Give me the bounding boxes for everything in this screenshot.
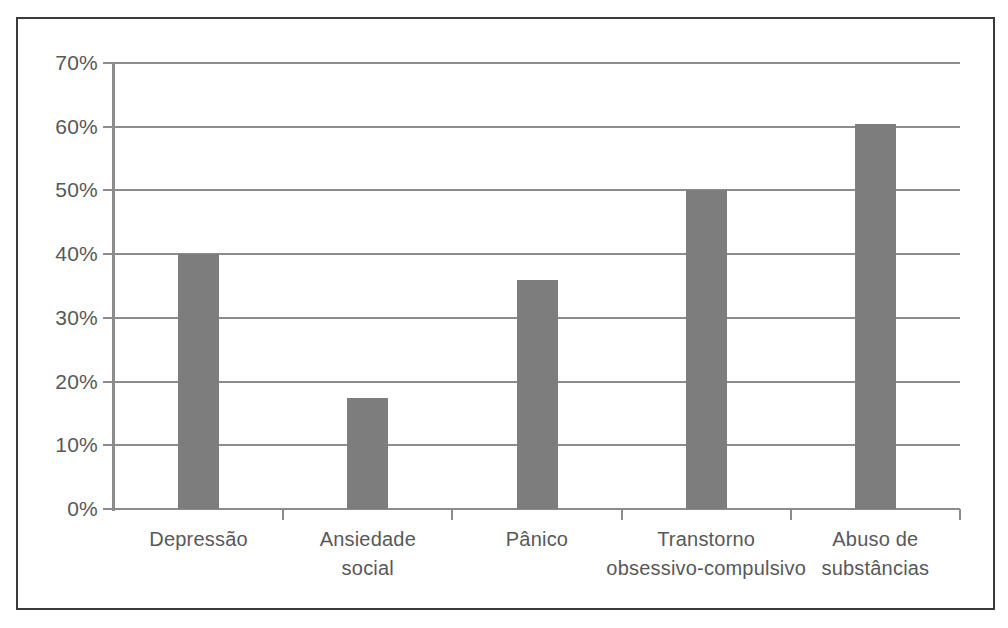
x-tick-mark bbox=[451, 509, 453, 520]
plot-area: 70%60%50%40%30%20%10%0% DepressãoAnsieda… bbox=[114, 63, 960, 509]
x-tick-label-line: Pânico bbox=[506, 525, 568, 554]
x-tick-label-line: substâncias bbox=[821, 554, 929, 583]
x-tick-label-line: Abuso de bbox=[821, 525, 929, 554]
y-tick-mark bbox=[103, 508, 114, 510]
gridline bbox=[114, 126, 960, 128]
y-tick-mark bbox=[103, 126, 114, 128]
x-tick-label: Transtornoobsessivo-compulsivo bbox=[606, 525, 806, 583]
bar bbox=[178, 254, 219, 509]
x-tick-label-line: obsessivo-compulsivo bbox=[606, 554, 806, 583]
y-tick-label: 0% bbox=[67, 497, 98, 521]
x-tick-mark bbox=[282, 509, 284, 520]
y-tick-label: 70% bbox=[55, 51, 98, 75]
x-tick-label: Abuso desubstâncias bbox=[821, 525, 929, 583]
y-tick-label: 10% bbox=[55, 433, 98, 457]
y-tick-mark bbox=[103, 381, 114, 383]
x-tick-label: Ansiedadesocial bbox=[320, 525, 416, 583]
x-tick-label-line: Ansiedade bbox=[320, 525, 416, 554]
x-tick-mark bbox=[959, 509, 961, 520]
x-tick-label: Pânico bbox=[506, 525, 568, 554]
y-tick-mark bbox=[103, 189, 114, 191]
x-tick-mark bbox=[790, 509, 792, 520]
y-tick-mark bbox=[103, 444, 114, 446]
gridline bbox=[114, 253, 960, 255]
y-tick-label: 50% bbox=[55, 178, 98, 202]
y-tick-label: 20% bbox=[55, 370, 98, 394]
x-tick-mark bbox=[621, 509, 623, 520]
y-tick-label: 30% bbox=[55, 306, 98, 330]
y-tick-mark bbox=[103, 317, 114, 319]
figure-root: 70%60%50%40%30%20%10%0% DepressãoAnsieda… bbox=[0, 0, 1008, 628]
gridline bbox=[114, 62, 960, 64]
y-tick-mark bbox=[103, 253, 114, 255]
bar bbox=[517, 280, 558, 509]
x-tick-label-line: Transtorno bbox=[606, 525, 806, 554]
x-tick-label: Depressão bbox=[149, 525, 248, 554]
y-tick-label: 60% bbox=[55, 115, 98, 139]
chart-frame: 70%60%50%40%30%20%10%0% DepressãoAnsieda… bbox=[16, 17, 995, 610]
bar bbox=[347, 398, 388, 510]
x-tick-label-line: social bbox=[320, 554, 416, 583]
bar bbox=[855, 124, 896, 509]
bar bbox=[686, 190, 727, 509]
gridline bbox=[114, 189, 960, 191]
y-tick-mark bbox=[103, 62, 114, 64]
y-tick-label: 40% bbox=[55, 242, 98, 266]
x-tick-label-line: Depressão bbox=[149, 525, 248, 554]
